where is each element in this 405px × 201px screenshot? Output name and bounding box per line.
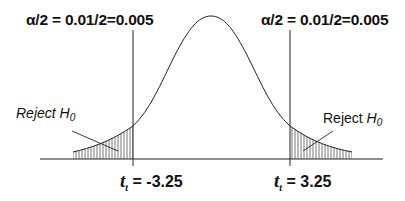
right-reject-hypothesis: H0	[367, 110, 383, 126]
t-distribution-diagram	[0, 0, 405, 201]
left-reject-label: Reject H0	[16, 105, 75, 123]
right-reject-label: Reject H0	[323, 110, 382, 128]
right-critical-label: tt = 3.25	[274, 170, 331, 193]
right-alpha-label: α/2 = 0.01/2=0.005	[261, 11, 388, 29]
right-reject-word: Reject	[323, 110, 367, 126]
density-curve	[73, 16, 352, 152]
left-reject-word: Reject	[16, 105, 60, 121]
left-alpha-label: α/2 = 0.01/2=0.005	[26, 11, 153, 29]
left-reject-hypothesis: H0	[60, 105, 76, 121]
left-critical-label: tt = -3.25	[120, 170, 183, 193]
